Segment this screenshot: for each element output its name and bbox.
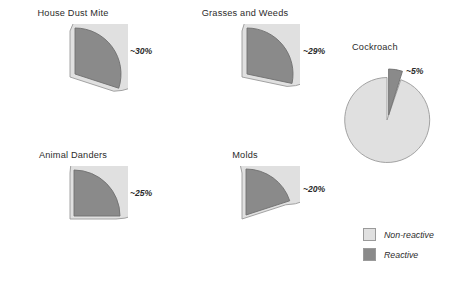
allergen-reactivity-pie-figure: House Dust Mite ~30% Grasses and Weeds ~… bbox=[0, 0, 465, 304]
slice-non-reactive bbox=[345, 78, 430, 163]
pie-title-cockroach: Cockroach bbox=[352, 42, 398, 52]
pct-label-house-dust-mite: ~30% bbox=[130, 46, 152, 56]
chart-legend: Non-reactive Reactive bbox=[363, 228, 459, 268]
pct-label-grasses-and-weeds: ~29% bbox=[303, 46, 325, 56]
legend-label-non-reactive: Non-reactive bbox=[384, 230, 434, 240]
pie-chart-house-dust-mite: House Dust Mite ~30% bbox=[8, 8, 138, 143]
pie-chart-animal-danders: Animal Danders ~25% bbox=[8, 150, 138, 285]
legend-label-reactive: Reactive bbox=[384, 250, 418, 260]
pie-title-house-dust-mite: House Dust Mite bbox=[8, 8, 138, 18]
legend-item-reactive: Reactive bbox=[363, 248, 459, 261]
pie-svg-molds bbox=[190, 166, 300, 276]
legend-item-non-reactive: Non-reactive bbox=[363, 228, 459, 241]
legend-swatch-non-reactive-icon bbox=[363, 228, 376, 241]
pct-label-molds: ~20% bbox=[303, 184, 325, 194]
pie-chart-cockroach: Cockroach ~5% bbox=[338, 42, 448, 167]
pie-chart-grasses-and-weeds: Grasses and Weeds ~29% bbox=[175, 8, 315, 143]
pct-label-cockroach: ~5% bbox=[406, 66, 423, 76]
pie-title-grasses-and-weeds: Grasses and Weeds bbox=[175, 8, 315, 18]
pie-title-molds: Molds bbox=[175, 150, 315, 160]
pie-svg-grasses-and-weeds bbox=[190, 24, 300, 134]
pie-svg-cockroach bbox=[342, 60, 442, 164]
pie-title-animal-danders: Animal Danders bbox=[8, 150, 138, 160]
pct-label-animal-danders: ~25% bbox=[130, 188, 152, 198]
pie-svg-house-dust-mite bbox=[18, 24, 128, 134]
pie-chart-molds: Molds ~20% bbox=[175, 150, 315, 285]
legend-swatch-reactive-icon bbox=[363, 248, 376, 261]
pie-svg-animal-danders bbox=[18, 166, 128, 276]
